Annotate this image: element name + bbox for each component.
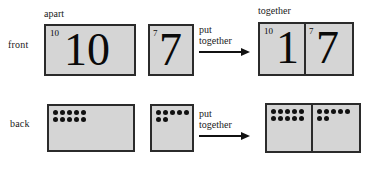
- dot: [271, 109, 276, 114]
- dot: [53, 117, 58, 122]
- row-label-back: back: [10, 118, 30, 129]
- dot: [60, 110, 65, 115]
- dot: [285, 109, 290, 114]
- dot: [292, 109, 297, 114]
- dot: [81, 110, 86, 115]
- dot: [184, 110, 189, 115]
- dot: [317, 116, 322, 121]
- front-card-ten-numeral: 10: [64, 27, 110, 73]
- dot-row: [156, 117, 189, 122]
- dot: [74, 117, 79, 122]
- dot: [156, 110, 161, 115]
- dot: [278, 109, 283, 114]
- arrow-label-line1-back: put: [199, 108, 251, 119]
- dot: [67, 110, 72, 115]
- dot: [338, 109, 343, 114]
- arrow-put-together-back: put together: [199, 108, 251, 140]
- back-result-panel-tens: [267, 105, 313, 151]
- dot: [299, 109, 304, 114]
- dot-row: [317, 109, 350, 114]
- dot-row: [53, 110, 86, 115]
- dot-row: [271, 109, 304, 114]
- back-result-tens-dots: [271, 109, 304, 121]
- arrow-shaft-back: [199, 135, 243, 137]
- dot: [345, 109, 350, 114]
- front-result-panel-tens: 10 1: [260, 24, 306, 74]
- dot-row: [156, 110, 189, 115]
- back-card-seven: [150, 104, 194, 152]
- dot: [156, 117, 161, 122]
- arrow-label-line1-front: put: [199, 24, 251, 35]
- dot: [331, 109, 336, 114]
- dot: [60, 117, 65, 122]
- dot: [170, 110, 175, 115]
- dot: [74, 110, 79, 115]
- back-card-ten-dots: [53, 110, 86, 122]
- back-result-ones-dots: [317, 109, 350, 121]
- front-card-seven-numeral: 7: [159, 27, 182, 73]
- dot: [67, 117, 72, 122]
- back-card-ten: [47, 104, 135, 152]
- dot: [163, 110, 168, 115]
- dot: [278, 116, 283, 121]
- front-card-result-seventeen: 10 1 7 7: [258, 22, 354, 76]
- dot: [324, 109, 329, 114]
- dot-row: [271, 116, 304, 121]
- dot: [163, 117, 168, 122]
- front-card-seven: 7 7: [148, 24, 194, 76]
- arrow-put-together-front: put together: [199, 24, 251, 56]
- arrow-head-back: [241, 132, 250, 140]
- dot: [81, 117, 86, 122]
- front-result-tens-numeral: 1: [276, 25, 299, 71]
- front-result-panel-ones: 7 7: [306, 24, 352, 74]
- front-card-seven-superscript: 7: [153, 29, 158, 38]
- back-result-panel-ones: [313, 105, 359, 151]
- dot: [271, 116, 276, 121]
- arrow-glyph-back: [199, 132, 251, 140]
- front-card-ten: 10 10: [44, 24, 136, 76]
- front-result-ones-numeral: 7: [316, 25, 339, 71]
- dot: [285, 116, 290, 121]
- back-card-result-seventeen: [265, 103, 361, 153]
- arrow-label-line2-back: together: [199, 119, 251, 130]
- front-result-tens-superscript: 10: [264, 27, 273, 36]
- arrow-shaft-front: [199, 51, 243, 53]
- arrow-glyph-front: [199, 48, 251, 56]
- place-value-cards-diagram: front back apart together 10 10 7 7 put …: [0, 0, 367, 176]
- dot: [53, 110, 58, 115]
- dot: [317, 109, 322, 114]
- dot: [299, 116, 304, 121]
- back-card-seven-dots: [156, 110, 189, 122]
- row-label-front: front: [8, 39, 28, 50]
- arrow-head-front: [241, 48, 250, 56]
- arrow-label-line2-front: together: [199, 35, 251, 46]
- dot: [292, 116, 297, 121]
- dot: [324, 116, 329, 121]
- caption-apart: apart: [44, 8, 64, 19]
- front-card-ten-superscript: 10: [50, 29, 59, 38]
- dot-row: [317, 116, 350, 121]
- caption-together: together: [258, 5, 291, 16]
- dot: [177, 110, 182, 115]
- front-result-ones-superscript: 7: [309, 27, 314, 36]
- dot-row: [53, 117, 86, 122]
